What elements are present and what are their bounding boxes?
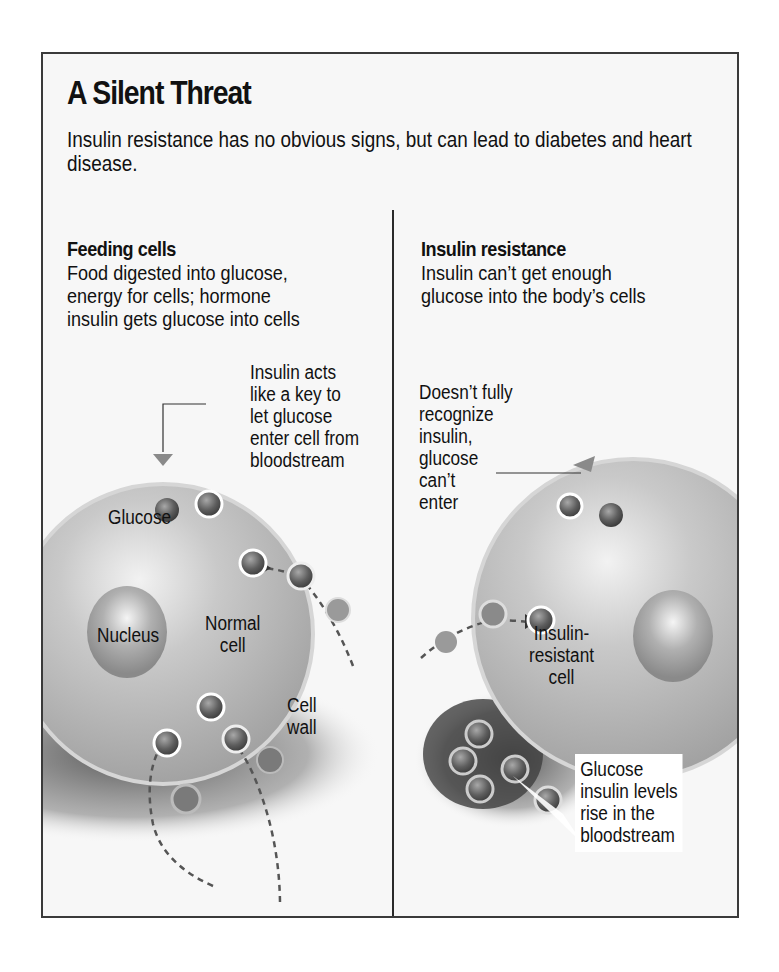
- nucleus-label: Nucleus: [97, 624, 159, 646]
- insulin-not-recognized-callout: Doesn’t fully recognize insulin, glucose…: [419, 381, 513, 513]
- infographic-frame: A Silent Threat Insulin resistance has n…: [41, 52, 739, 918]
- insulin-key-callout: Insulin acts like a key to let glucose e…: [250, 361, 359, 471]
- page-subtitle: Insulin resistance has no obvious signs,…: [67, 128, 703, 176]
- left-panel-heading: Feeding cells: [67, 237, 176, 261]
- right-panel-description: Insulin can’t get enough glucose into th…: [421, 261, 646, 307]
- bloodstream-note: Glucose insulin levels rise in the blood…: [575, 754, 683, 852]
- glucose-label: Glucose: [108, 506, 171, 528]
- panel-divider: [392, 210, 394, 918]
- normal-cell-label: Normal cell: [205, 612, 260, 656]
- cell-wall-label: Cell wall: [287, 694, 317, 738]
- resistant-cell-label: Insulin- resistant cell: [529, 622, 594, 688]
- right-panel-heading: Insulin resistance: [421, 237, 566, 261]
- page-title: A Silent Threat: [67, 74, 251, 112]
- left-panel-description: Food digested into glucose, energy for c…: [67, 261, 300, 330]
